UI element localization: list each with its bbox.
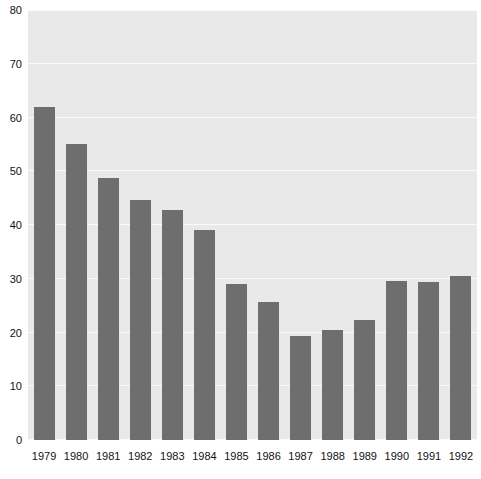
bars-layer	[28, 10, 477, 440]
y-tick-label: 10	[10, 381, 22, 392]
bar[interactable]	[258, 302, 279, 440]
bar-chart: 01020304050607080 1979198019811982198319…	[0, 0, 481, 479]
plot-area	[28, 10, 477, 440]
y-axis: 01020304050607080	[0, 0, 28, 479]
x-tick-label: 1985	[224, 451, 248, 462]
bar[interactable]	[450, 276, 471, 440]
x-tick-label: 1987	[288, 451, 312, 462]
bar[interactable]	[226, 284, 247, 440]
x-tick-label: 1983	[160, 451, 184, 462]
y-tick-label: 50	[10, 166, 22, 177]
x-tick-label: 1989	[353, 451, 377, 462]
bar[interactable]	[194, 230, 215, 440]
y-tick-label: 80	[10, 5, 22, 16]
y-tick-label: 60	[10, 112, 22, 123]
y-tick-label: 40	[10, 220, 22, 231]
x-tick-label: 1988	[320, 451, 344, 462]
bar[interactable]	[98, 178, 119, 440]
y-tick-label: 20	[10, 327, 22, 338]
y-tick-label: 0	[16, 435, 22, 446]
x-tick-label: 1986	[256, 451, 280, 462]
x-tick-label: 1981	[96, 451, 120, 462]
x-tick-label: 1979	[32, 451, 56, 462]
bar[interactable]	[418, 282, 439, 440]
bar[interactable]	[354, 320, 375, 440]
x-tick-label: 1992	[449, 451, 473, 462]
y-tick-label: 30	[10, 273, 22, 284]
bar[interactable]	[130, 200, 151, 440]
y-tick-label: 70	[10, 58, 22, 69]
bar[interactable]	[34, 107, 55, 440]
x-axis: 1979198019811982198319841985198619871988…	[28, 443, 477, 463]
bar[interactable]	[162, 210, 183, 440]
bar[interactable]	[322, 330, 343, 440]
x-tick-label: 1991	[417, 451, 441, 462]
x-tick-label: 1982	[128, 451, 152, 462]
bar[interactable]	[290, 336, 311, 440]
chart-top-margin	[0, 0, 481, 4]
bar[interactable]	[386, 281, 407, 440]
x-tick-label: 1980	[64, 451, 88, 462]
x-tick-label: 1984	[192, 451, 216, 462]
bar[interactable]	[66, 144, 87, 440]
x-tick-label: 1990	[385, 451, 409, 462]
